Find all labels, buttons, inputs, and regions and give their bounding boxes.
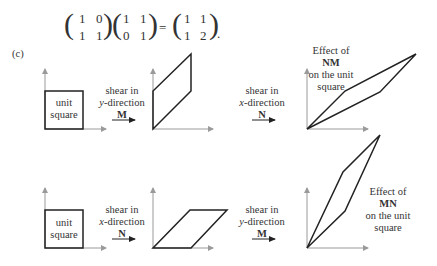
unit-square-label: unit [56,217,72,228]
matrix-a-entry: 1 [96,28,103,43]
effect-nm-panel: Effect of NM on the unit square [307,45,416,129]
sheared-x-panel [153,188,227,248]
right-paren: ) [148,7,158,41]
effect-mn-panel: Effect of MN on the unit square [307,135,411,248]
matrix-b-entry: 1 [140,28,147,43]
equals-sign: = [159,20,166,35]
unit-square-panel: unit square [45,69,106,129]
effect-label: on the unit [309,69,354,80]
shear-label: shear in [106,85,140,96]
effect-matrix: MN [379,198,397,209]
transform-arrow-m: shear in y-direction M [98,85,145,120]
unit-square-panel: unit square [45,188,106,248]
parallelogram [153,210,227,248]
effect-label: Effect of [370,186,407,197]
matrix-c-entry: 1 [184,28,191,43]
matrix-b-entry: 1 [140,11,147,26]
parallelogram [153,54,191,129]
left-paren: ( [64,7,74,41]
matrix-a-entry: 1 [79,11,86,26]
matrix-label: N [258,109,266,120]
matrix-c-entry: 2 [200,28,207,43]
figure-canvas: ( 1 0 1 1 ) ( 1 1 0 1 ) = ( 1 1 1 2 ) . … [0,0,437,266]
shear-direction: y-direction [238,216,285,227]
matrix-a-entry: 0 [96,11,103,26]
effect-label: square [317,81,345,92]
transform-arrow-n: shear in x-direction N [98,204,145,239]
row-2: unit square shear in x-direction N shear… [45,135,411,248]
effect-matrix: NM [322,57,340,68]
unit-square-label: unit [56,97,72,108]
shear-label: shear in [246,204,280,215]
transform-arrow-m: shear in y-direction M [238,204,285,239]
left-paren: ( [172,7,182,41]
transform-arrow-n: shear in x-direction N [238,85,285,120]
shear-direction: x-direction [98,216,145,227]
effect-label: square [374,222,402,233]
unit-square-label: square [50,229,78,240]
shear-direction: y-direction [98,97,145,108]
figure-part-label: (c) [12,48,24,60]
matrix-b-entry: 0 [123,28,130,43]
shear-label: shear in [106,204,140,215]
matrix-equation: ( 1 0 1 1 ) ( 1 1 0 1 ) = ( 1 1 1 2 ) . [64,7,220,43]
effect-label: on the unit [366,210,411,221]
effect-label: Effect of [313,45,350,56]
matrix-label: M [117,109,127,120]
matrix-c-entry: 1 [184,11,191,26]
matrix-label: N [118,228,126,239]
matrix-a-entry: 1 [79,28,86,43]
matrix-label: M [257,228,267,239]
unit-square-label: square [50,109,78,120]
row-1: unit square shear in y-direction M shear… [45,45,416,129]
matrix-b-entry: 1 [123,11,130,26]
shear-label: shear in [246,85,280,96]
period: . [217,26,220,41]
left-paren: ( [112,7,122,41]
sheared-y-panel [153,54,213,129]
matrix-c-entry: 1 [200,11,207,26]
shear-direction: x-direction [238,97,285,108]
